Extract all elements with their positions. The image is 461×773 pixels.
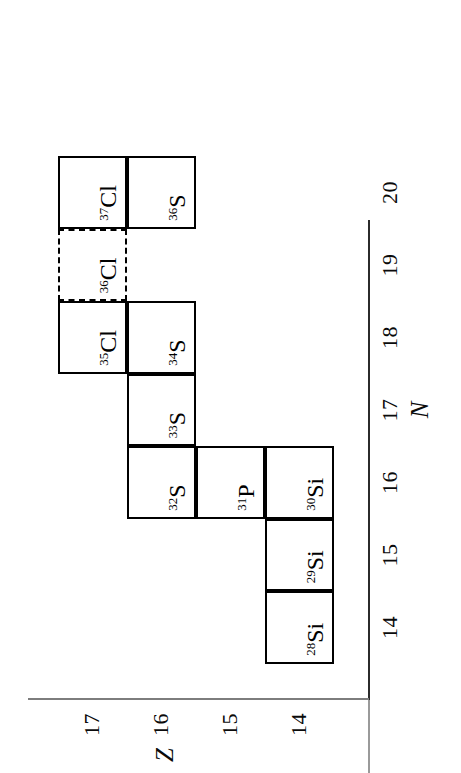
nuclide-symbol-si-30: Si: [302, 478, 328, 498]
z-axis-line: [28, 698, 369, 700]
nuclide-label-s-34: 34S: [167, 339, 189, 365]
nuclide-symbol-cl-36: Cl: [95, 258, 121, 281]
n-axis-title: N: [406, 390, 434, 430]
nuclide-cell-p-31: 31P: [196, 446, 265, 519]
nuclide-cell-s-34: 34S: [127, 301, 196, 374]
nuclide-symbol-cl-37: Cl: [95, 185, 121, 208]
nuclide-cell-cl-35: 35Cl: [58, 301, 127, 374]
nuclide-mass-number-cl-35: 35: [96, 353, 111, 366]
z-axis-tick-15: 15: [219, 713, 241, 759]
nuclide-label-cl-36: 36Cl: [98, 258, 120, 294]
nuclide-label-cl-37: 37Cl: [98, 185, 120, 221]
n-axis-tick-19: 19: [379, 245, 401, 285]
nuclide-cell-s-33: 33S: [127, 374, 196, 447]
n-axis-tick-18: 18: [379, 318, 401, 358]
nuclide-cell-s-36: 36S: [127, 156, 196, 229]
nuclide-mass-number-si-28: 28: [303, 643, 318, 656]
nuclide-cell-cl-37: 37Cl: [58, 156, 127, 229]
n-axis-line-extension: [368, 699, 370, 773]
nuclide-label-si-28: 28Si: [305, 623, 327, 656]
nuclide-label-cl-35: 35Cl: [98, 330, 120, 366]
nuclide-chart-figure: 141516171819201415161728Si29Si30Si31P32S…: [0, 0, 461, 773]
nuclide-cell-si-28: 28Si: [265, 591, 334, 664]
nuclide-mass-number-cl-36: 36: [96, 280, 111, 293]
nuclide-label-s-32: 32S: [167, 484, 189, 510]
nuclide-symbol-s-36: S: [164, 194, 190, 207]
nuclide-label-si-30: 30Si: [305, 478, 327, 511]
nuclide-symbol-si-29: Si: [302, 550, 328, 570]
z-axis-tick-17: 17: [81, 713, 103, 759]
z-axis-tick-14: 14: [288, 713, 310, 759]
n-axis-tick-20: 20: [379, 173, 401, 213]
nuclide-label-s-33: 33S: [167, 412, 189, 438]
z-axis-title: Z: [151, 743, 179, 767]
nuclide-mass-number-s-36: 36: [165, 208, 180, 221]
n-axis-tick-14: 14: [379, 608, 401, 648]
nuclide-symbol-si-28: Si: [302, 623, 328, 643]
nuclide-symbol-s-33: S: [164, 412, 190, 425]
nuclide-symbol-s-34: S: [164, 339, 190, 352]
plot-area: 141516171819201415161728Si29Si30Si31P32S…: [0, 0, 461, 773]
nuclide-mass-number-s-32: 32: [165, 498, 180, 511]
n-axis-tick-16: 16: [379, 463, 401, 503]
nuclide-cell-si-29: 29Si: [265, 519, 334, 592]
nuclide-cell-s-32: 32S: [127, 446, 196, 519]
n-axis-tick-17: 17: [379, 390, 401, 430]
nuclide-label-s-36: 36S: [167, 194, 189, 220]
nuclide-mass-number-s-33: 33: [165, 425, 180, 438]
n-axis-line: [368, 220, 370, 700]
nuclide-label-si-29: 29Si: [305, 550, 327, 583]
n-axis-tick-15: 15: [379, 535, 401, 575]
nuclide-cell-cl-36: 36Cl: [58, 229, 127, 302]
nuclide-symbol-cl-35: Cl: [95, 330, 121, 353]
nuclide-mass-number-cl-37: 37: [96, 208, 111, 221]
nuclide-mass-number-s-34: 34: [165, 353, 180, 366]
nuclide-symbol-s-32: S: [164, 484, 190, 497]
nuclide-mass-number-p-31: 31: [234, 498, 249, 511]
nuclide-cell-si-30: 30Si: [265, 446, 334, 519]
nuclide-label-p-31: 31P: [236, 484, 258, 510]
rotated-plot-container: 141516171819201415161728Si29Si30Si31P32S…: [0, 0, 461, 773]
nuclide-symbol-p-31: P: [233, 484, 259, 497]
nuclide-mass-number-si-30: 30: [303, 498, 318, 511]
nuclide-mass-number-si-29: 29: [303, 570, 318, 583]
